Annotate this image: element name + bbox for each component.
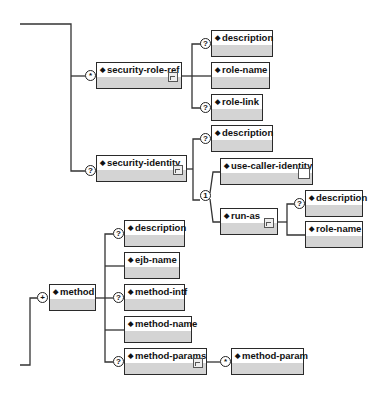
expand-children-icon[interactable] (193, 358, 203, 368)
node-label: description (222, 32, 273, 43)
node-label: method-name (135, 318, 197, 329)
choice-one-of: 1 (200, 190, 211, 201)
node-label: run-as (231, 210, 260, 221)
expand-children-icon[interactable] (264, 218, 274, 228)
cardinality-zero-or-more: * (85, 70, 96, 81)
cardinality-optional: ? (113, 228, 124, 239)
node-role-name[interactable]: ◆role-name (305, 221, 363, 248)
node-description[interactable]: ◆description (124, 220, 185, 247)
element-diamond-icon: ◆ (53, 288, 58, 295)
node-security-identity[interactable]: ◆security-identity (96, 155, 187, 182)
element-diamond-icon: ◆ (215, 66, 220, 73)
cardinality-zero-or-more: * (220, 356, 231, 367)
cardinality-optional: ? (200, 102, 211, 113)
schema-diagram: * ◆security-role-ref ? ◆description ◆rol… (0, 0, 382, 395)
element-diamond-icon: ◆ (215, 98, 220, 105)
node-label: security-identity (107, 157, 180, 168)
cardinality-optional: ? (294, 198, 305, 209)
cardinality-optional: ? (85, 165, 96, 176)
cardinality-one-or-more: + (37, 292, 48, 303)
element-diamond-icon: ◆ (215, 34, 220, 41)
cardinality-optional: ? (113, 292, 124, 303)
node-label: description (316, 192, 367, 203)
expand-children-icon[interactable] (173, 165, 183, 175)
element-diamond-icon: ◆ (235, 352, 240, 359)
element-diamond-icon: ◆ (128, 288, 133, 295)
node-method-intf[interactable]: ◆method-intf (124, 284, 185, 311)
node-description[interactable]: ◆description (305, 190, 363, 217)
node-ejb-name[interactable]: ◆ejb-name (124, 252, 180, 279)
node-description[interactable]: ◆description (211, 125, 273, 152)
node-label: method-intf (135, 286, 187, 297)
node-method-name[interactable]: ◆method-name (124, 316, 192, 343)
node-method-params[interactable]: ◆method-params (124, 348, 207, 375)
element-diamond-icon: ◆ (309, 225, 314, 232)
node-label: ejb-name (135, 254, 177, 265)
node-role-name[interactable]: ◆role-name (211, 62, 270, 89)
empty-content-icon (298, 168, 310, 179)
node-label: description (135, 222, 186, 233)
element-diamond-icon: ◆ (128, 320, 133, 327)
node-role-link[interactable]: ◆role-link (211, 94, 263, 121)
element-diamond-icon: ◆ (100, 159, 105, 166)
element-diamond-icon: ◆ (128, 352, 133, 359)
cardinality-optional: ? (200, 38, 211, 49)
node-label: role-name (316, 223, 361, 234)
node-description[interactable]: ◆description (211, 30, 273, 57)
element-diamond-icon: ◆ (100, 66, 105, 73)
element-diamond-icon: ◆ (224, 162, 229, 169)
element-diamond-icon: ◆ (224, 212, 229, 219)
node-label: method-param (242, 350, 308, 361)
cardinality-optional: ? (113, 356, 124, 367)
node-label: method (60, 286, 94, 297)
element-diamond-icon: ◆ (128, 256, 133, 263)
cardinality-optional: ? (200, 133, 211, 144)
node-method[interactable]: ◆method (49, 284, 96, 311)
node-label: role-link (222, 96, 259, 107)
expand-children-icon[interactable] (168, 72, 178, 82)
node-run-as[interactable]: ◆run-as (220, 208, 278, 235)
element-diamond-icon: ◆ (128, 224, 133, 231)
element-diamond-icon: ◆ (215, 129, 220, 136)
node-label: description (222, 127, 273, 138)
node-use-caller-identity[interactable]: ◆use-caller-identity (220, 158, 313, 185)
node-method-param[interactable]: ◆method-param (231, 348, 304, 375)
element-diamond-icon: ◆ (309, 194, 314, 201)
node-security-role-ref[interactable]: ◆security-role-ref (96, 62, 182, 89)
node-label: role-name (222, 64, 267, 75)
